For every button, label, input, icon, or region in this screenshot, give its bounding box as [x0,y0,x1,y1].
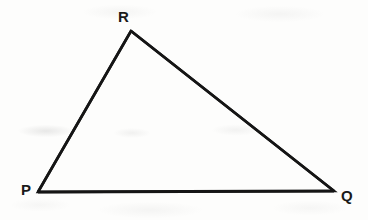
triangle-shape [38,31,334,192]
vertex-label-r: R [118,9,129,24]
triangle-figure: R P Q [0,0,368,220]
edge-pq [38,191,334,192]
edge-pr [38,31,131,192]
edge-rq [131,31,334,191]
vertex-label-p: P [21,182,31,197]
triangle-drawing [0,0,368,220]
vertex-label-q: Q [341,188,353,203]
